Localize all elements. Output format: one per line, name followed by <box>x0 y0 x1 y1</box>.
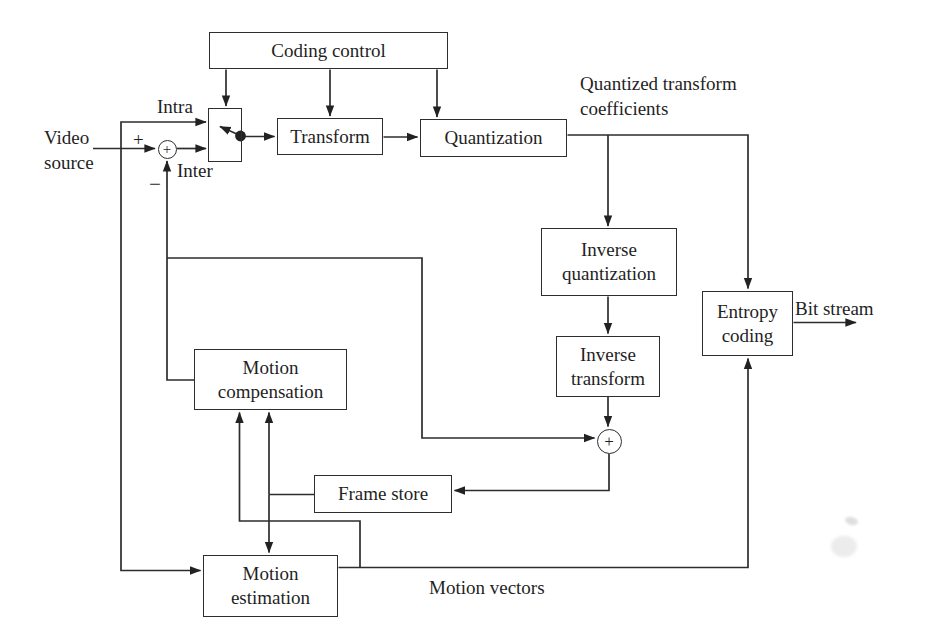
wire-motionvectors-to-entropy <box>339 359 749 568</box>
adder-operator: + <box>604 433 614 450</box>
transform-label: Transform <box>290 125 370 149</box>
motion-estimation-block: Motion estimation <box>203 555 338 617</box>
coding-control-label: Coding control <box>271 39 386 63</box>
entropy-coding-block: Entropy coding <box>702 291 793 356</box>
quantized-coefficients-label: Quantized transform coefficients <box>580 71 776 121</box>
inverse-transform-label: Inverse transform <box>560 343 656 391</box>
motion-compensation-block: Motion compensation <box>194 349 347 410</box>
intra-label: Intra <box>157 94 193 119</box>
entropy-coding-label: Entropy coding <box>706 300 789 348</box>
wire-prediction-to-subtractor <box>167 161 194 380</box>
adder-junction: + <box>597 429 622 454</box>
wire-video-to-motionestimation <box>121 149 201 571</box>
motion-vectors-label: Motion vectors <box>429 575 545 600</box>
subtractor-junction: + <box>158 140 177 159</box>
bit-stream-label: Bit stream <box>795 296 874 321</box>
wire-adder-to-framestore <box>455 454 610 491</box>
inter-label: Inter <box>177 158 213 183</box>
encoder-block-diagram: Coding control Transform Quantization In… <box>0 0 926 643</box>
motion-compensation-label: Motion compensation <box>198 356 343 404</box>
inverse-quantization-block: Inverse quantization <box>541 228 677 296</box>
video-source-label: Video source <box>44 125 120 175</box>
coding-control-block: Coding control <box>209 32 448 69</box>
inverse-quantization-label: Inverse quantization <box>545 238 673 286</box>
frame-store-block: Frame store <box>314 475 452 513</box>
inverse-transform-block: Inverse transform <box>556 336 660 397</box>
motion-estimation-label: Motion estimation <box>207 562 334 610</box>
minus-sign-label: − <box>149 174 161 195</box>
intra-inter-switch-block <box>208 108 242 162</box>
quantization-label: Quantization <box>444 126 542 150</box>
frame-store-label: Frame store <box>338 482 428 506</box>
transform-block: Transform <box>277 118 383 155</box>
subtractor-operator: + <box>163 142 171 157</box>
quantization-block: Quantization <box>420 119 567 157</box>
plus-sign-label: + <box>133 130 144 149</box>
wire-prediction-to-adder <box>167 258 595 438</box>
